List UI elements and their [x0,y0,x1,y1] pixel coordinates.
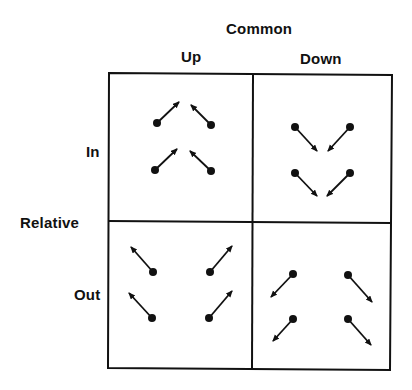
vector-origin-dot-icon [206,268,214,276]
vector-arrow-icon [348,319,371,345]
vector-origin-dot-icon [148,314,156,322]
vector-arrow-icon [131,247,153,272]
quadrant-common-down-relative-out [271,270,372,345]
grid-frame [108,73,392,370]
vector-arrow-icon [209,291,232,318]
vector-arrow-icon [190,151,211,171]
vector-arrow-icon [327,173,350,196]
vector-origin-dot-icon [344,315,352,323]
vector-arrow-icon [210,246,232,272]
vector-origin-dot-icon [344,271,352,279]
vector-origin-dot-icon [289,315,297,323]
vector-arrow-icon [295,173,317,196]
quadrant-common-down-relative-in [291,123,354,196]
vector-origin-dot-icon [207,121,215,129]
vector-arrow-icon [348,275,372,302]
vector-arrow-icon [295,127,317,151]
vector-origin-dot-icon [149,268,157,276]
vector-arrow-icon [129,293,152,318]
vector-arrow-icon [271,274,293,297]
vector-origin-dot-icon [153,119,161,127]
horizontal-divider [108,221,391,223]
vector-origin-dot-icon [289,270,297,278]
vector-arrow-icon [273,319,293,341]
vector-arrow-icon [328,127,350,151]
vector-origin-dot-icon [207,167,215,175]
vector-arrow-icon [157,102,179,123]
vector-arrow-icon [191,105,211,125]
vector-origin-dot-icon [151,166,159,174]
vector-origin-dot-icon [291,123,299,131]
quadrant-diagram [0,0,412,390]
vector-origin-dot-icon [346,123,354,131]
quadrant-common-up-relative-in [151,102,215,175]
vector-origin-dot-icon [346,169,354,177]
vector-origin-dot-icon [291,169,299,177]
vector-origin-dot-icon [205,314,213,322]
vector-arrow-icon [155,149,177,170]
quadrant-common-up-relative-out [129,246,232,322]
